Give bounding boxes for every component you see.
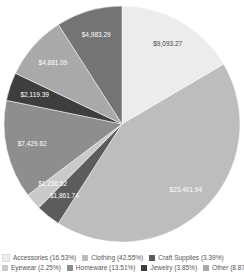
slice-value-label: $23,401.94 [170, 186, 203, 193]
slice-value-label: $2,119.39 [20, 91, 49, 98]
legend-item-craft-supplies[interactable]: Craft Supplies (3.39%) [149, 253, 223, 263]
legend-item-eyewear[interactable]: Eyewear (2.25%) [2, 263, 61, 273]
slice-value-label: $1,236.52 [38, 180, 67, 187]
legend-swatch [203, 265, 209, 271]
legend-item-other[interactable]: Other (8.87%) [203, 263, 244, 273]
legend-row-1: Accessories (16.53%) Clothing (42.55%) C… [0, 253, 244, 263]
legend-swatch [2, 254, 10, 262]
legend-item-homeware[interactable]: Homeware (13.51%) [67, 263, 136, 273]
slice-value-label: $4,983.29 [82, 31, 111, 38]
slice-value-label: $1,861.74 [50, 192, 79, 199]
legend-swatch [67, 265, 73, 271]
slice-value-label: $7,429.62 [18, 140, 47, 147]
chart-legend: Accessories (16.53%) Clothing (42.55%) C… [0, 253, 244, 273]
legend-swatch [82, 255, 88, 261]
pie-chart: $9,093.27$23,401.94$1,861.74$1,236.52$7,… [0, 0, 244, 250]
legend-swatch [149, 255, 155, 261]
slice-value-label: $9,093.27 [153, 40, 182, 47]
legend-swatch [2, 265, 8, 271]
legend-swatch [141, 265, 147, 271]
legend-item-jewelry[interactable]: Jewelry (3.85%) [141, 263, 197, 273]
legend-item-accessories[interactable]: Accessories (16.53%) [2, 253, 76, 263]
slice-value-label: $4,881.09 [39, 59, 68, 66]
legend-row-2: Eyewear (2.25%) Homeware (13.51%) Jewelr… [0, 263, 244, 273]
legend-item-clothing[interactable]: Clothing (42.55%) [82, 253, 143, 263]
